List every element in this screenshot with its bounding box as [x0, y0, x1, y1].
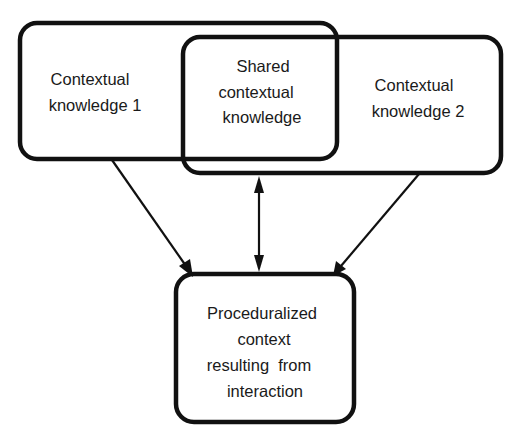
- label-line: Shared: [236, 57, 289, 75]
- arrow-knowledge2-to-procedural: [333, 174, 419, 276]
- arrow-knowledge1-to-procedural: [112, 160, 193, 277]
- arrowhead-down-icon: [254, 255, 264, 272]
- label-line: context: [237, 330, 291, 348]
- context-diagram: Contextual knowledge 1 Shared contextual…: [0, 0, 521, 443]
- label-line: knowledge: [223, 108, 302, 126]
- label-line: knowledge 2: [372, 102, 465, 120]
- label-line: interaction: [227, 382, 303, 400]
- arrowhead-up-icon: [254, 176, 264, 193]
- label-line: contextual: [218, 83, 293, 101]
- label-line: knowledge 1: [49, 96, 142, 114]
- label-contextual-knowledge-1: Contextual knowledge 1: [49, 70, 142, 114]
- label-shared-contextual-knowledge: Shared contextual knowledge: [218, 57, 301, 126]
- arrow-shared-bidirectional: [254, 176, 264, 272]
- label-line: Contextual: [375, 76, 454, 94]
- label-line: resulting from: [207, 356, 312, 374]
- label-line: Contextual: [51, 70, 130, 88]
- label-line: Proceduralized: [207, 304, 317, 322]
- label-contextual-knowledge-2: Contextual knowledge 2: [372, 76, 465, 120]
- label-proceduralized-context: Proceduralized context resulting from in…: [207, 304, 317, 400]
